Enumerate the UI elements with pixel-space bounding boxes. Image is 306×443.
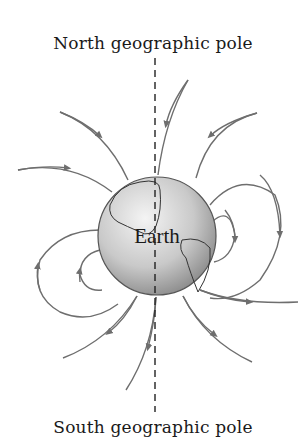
field-line-right-lower [200, 290, 298, 303]
field-line-top-left [60, 112, 128, 180]
field-line-bottom-center [126, 297, 156, 390]
earth-magnetic-field-diagram: Earth [0, 0, 306, 443]
field-line-left-small-loop [80, 250, 102, 290]
field-line-top-center [158, 80, 188, 175]
field-line-right-big-loop [210, 185, 281, 299]
south-geographic-pole-label: South geographic pole [0, 417, 306, 437]
field-line-bottom-left [63, 296, 137, 358]
field-line-bottom-right [183, 296, 252, 362]
field-line-left-outer [18, 168, 112, 192]
earth-globe: Earth [98, 177, 216, 295]
earth-label: Earth [134, 224, 180, 248]
field-line-top-right [196, 113, 257, 178]
